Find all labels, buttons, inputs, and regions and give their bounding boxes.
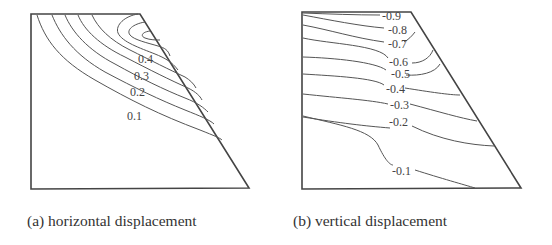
slope-outline-b xyxy=(302,12,521,189)
contour-line xyxy=(303,57,440,75)
caption-panel-b: (b) vertical displacement xyxy=(293,212,447,230)
contour-label: -0.8 xyxy=(388,23,407,37)
contour-label: -0.9 xyxy=(382,9,401,23)
caption-panel-a: (a) horizontal displacement xyxy=(27,212,197,230)
contour-label: 0.4 xyxy=(138,52,153,66)
contour-label: 0.2 xyxy=(130,85,145,99)
contour-label: 0.1 xyxy=(127,109,142,123)
contour-line xyxy=(303,38,433,63)
contour-line xyxy=(52,15,214,124)
panel-b-vertical-displacement: -0.9 -0.8 -0.7 -0.6 -0.5 -0.4 -0.3 -0.2 … xyxy=(302,9,521,189)
contour-line xyxy=(303,15,384,28)
contour-label: 0.3 xyxy=(134,69,149,83)
contour-label: -0.7 xyxy=(388,37,407,51)
contour-label: -0.1 xyxy=(392,164,411,178)
contour-label: -0.4 xyxy=(386,82,405,96)
figure-canvas: 0.4 0.3 0.2 0.1 -0.9 -0.8 -0.7 -0.6 -0.5… xyxy=(0,0,552,245)
contour-line xyxy=(303,13,380,15)
panel-a-horizontal-displacement: 0.4 0.3 0.2 0.1 xyxy=(31,14,249,189)
contour-label: -0.2 xyxy=(389,115,408,129)
contour-line xyxy=(303,74,460,95)
contour-label: -0.3 xyxy=(390,98,409,112)
contour-label: -0.5 xyxy=(391,67,410,81)
